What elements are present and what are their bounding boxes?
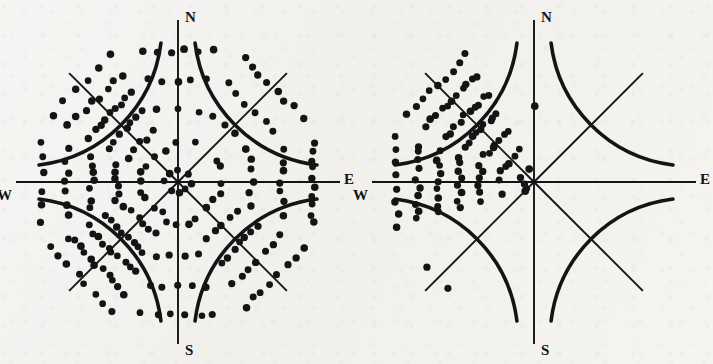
- observation-dot: [151, 205, 158, 212]
- observation-dot: [199, 312, 206, 319]
- observation-dot: [166, 170, 174, 178]
- observation-dot: [96, 95, 103, 102]
- observation-dot: [247, 202, 254, 209]
- observation-dot: [63, 201, 71, 209]
- observation-dot: [212, 227, 219, 234]
- observation-dot: [276, 231, 283, 238]
- observation-dot: [154, 49, 161, 56]
- observation-dot: [139, 220, 146, 227]
- observation-dot: [224, 254, 231, 261]
- observation-dot: [172, 139, 179, 146]
- observation-dot: [150, 127, 157, 134]
- observation-dot: [311, 140, 318, 147]
- observation-dot: [517, 174, 524, 181]
- observation-dot: [473, 73, 480, 80]
- observation-dot: [189, 282, 196, 289]
- observation-dot: [290, 102, 297, 109]
- observation-dot: [432, 112, 439, 119]
- observation-dot: [415, 165, 422, 172]
- observation-dot: [453, 92, 460, 99]
- observation-dot: [462, 81, 469, 88]
- observation-dot: [80, 280, 87, 287]
- observation-dot: [37, 219, 44, 226]
- observation-dot: [245, 189, 252, 196]
- observation-dot: [217, 190, 224, 197]
- observation-dot: [225, 79, 232, 86]
- observation-dot: [203, 204, 211, 212]
- observation-dot: [454, 182, 461, 189]
- observation-dot: [174, 167, 181, 174]
- observation-dot: [275, 88, 283, 96]
- observation-dot: [455, 154, 463, 162]
- observation-dot: [496, 176, 503, 183]
- observation-dot: [243, 304, 251, 312]
- observation-dot: [403, 110, 410, 117]
- observation-dot: [474, 182, 481, 189]
- observation-dot: [434, 185, 441, 192]
- observation-dot: [195, 251, 202, 258]
- observation-dot: [477, 198, 484, 205]
- observation-dot: [217, 222, 225, 230]
- observation-dot: [85, 77, 92, 84]
- observation-dot: [136, 214, 143, 221]
- observation-dot: [308, 212, 315, 219]
- observation-dot: [433, 157, 441, 165]
- observation-dot: [161, 177, 168, 184]
- observation-dot: [252, 259, 259, 266]
- observation-dot: [72, 86, 79, 93]
- observation-dot: [505, 160, 513, 168]
- observation-dot: [86, 221, 93, 228]
- observation-dot: [108, 217, 115, 224]
- observation-dot: [495, 137, 502, 144]
- observation-dot: [105, 86, 112, 93]
- observation-dot: [83, 107, 90, 114]
- observation-dot: [531, 102, 539, 110]
- observation-dot: [167, 310, 174, 317]
- observation-dot: [311, 183, 319, 191]
- observation-dot: [499, 191, 506, 198]
- observation-dot: [505, 128, 512, 135]
- observation-dot: [485, 92, 492, 99]
- observation-dot: [460, 112, 467, 119]
- observation-dot: [128, 89, 135, 96]
- observation-dot: [99, 241, 106, 248]
- observation-dot: [121, 95, 128, 102]
- observation-dot: [280, 159, 287, 166]
- observation-dot: [236, 239, 243, 246]
- observation-dot: [63, 260, 71, 268]
- observation-dot: [155, 311, 162, 318]
- observation-dot: [92, 291, 99, 298]
- observation-dot: [455, 168, 462, 175]
- observation-dot: [176, 189, 184, 197]
- observation-dot: [185, 221, 193, 229]
- observation-dot: [457, 204, 464, 211]
- observation-dot: [426, 87, 433, 94]
- observation-dot: [137, 168, 145, 176]
- observation-dot: [415, 143, 422, 150]
- observation-dot: [273, 271, 280, 278]
- observation-dot: [112, 105, 119, 112]
- radius-45deg: [178, 73, 287, 182]
- observation-dot: [250, 294, 257, 301]
- label-east: E: [344, 171, 354, 187]
- observation-dot: [114, 283, 121, 290]
- observation-dot: [232, 90, 239, 97]
- observation-dot: [392, 159, 399, 166]
- observation-dot: [88, 197, 96, 205]
- observation-dot: [413, 215, 420, 222]
- observation-dot: [254, 223, 261, 230]
- observation-dot: [466, 140, 473, 147]
- radius-315deg: [178, 182, 287, 291]
- observation-dot: [132, 114, 139, 121]
- observation-dot: [209, 196, 216, 203]
- observation-dot: [87, 153, 94, 160]
- observation-dot: [414, 192, 422, 200]
- observation-dot: [232, 246, 239, 253]
- observation-dot: [203, 76, 210, 83]
- observation-dot: [242, 54, 249, 61]
- observation-dot: [139, 249, 146, 256]
- observation-dot: [173, 221, 180, 228]
- observation-dot: [525, 165, 533, 173]
- observation-dot: [147, 282, 154, 289]
- observation-dot: [120, 203, 128, 211]
